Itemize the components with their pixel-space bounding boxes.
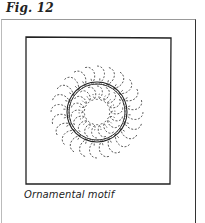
figure-label: Fig. 12 <box>6 1 54 15</box>
illustration-ornamental-motif <box>25 36 173 186</box>
figure-caption: Ornamental motif <box>24 189 114 200</box>
motif-frame <box>26 37 171 184</box>
outer-petal-ring <box>51 66 144 159</box>
inner-petal-ring <box>70 86 123 139</box>
ring-inner <box>69 84 125 140</box>
ring-outer <box>67 82 127 142</box>
